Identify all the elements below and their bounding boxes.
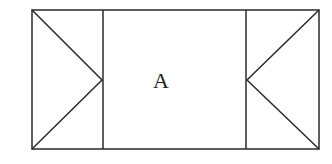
center-label: A — [153, 68, 169, 93]
right-triangle-lines — [247, 10, 319, 149]
diagram-figure: A — [0, 0, 332, 164]
outer-rectangle — [32, 10, 319, 149]
left-triangle-lines — [32, 10, 102, 149]
